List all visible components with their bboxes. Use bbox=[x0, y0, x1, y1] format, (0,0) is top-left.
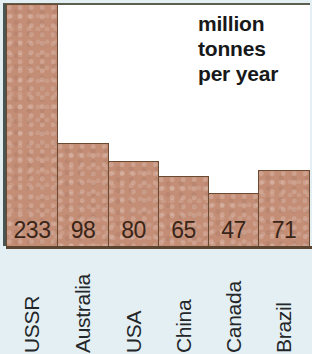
bar-chart-figure: 233 98 80 65 47 71 million tonnes per ye… bbox=[0, 0, 312, 354]
category-cell-ussr: USSR bbox=[6, 249, 58, 354]
category-label-brazil: Brazil bbox=[263, 302, 284, 353]
bar-value-ussr: 233 bbox=[7, 219, 57, 242]
category-label-china-text: China bbox=[173, 300, 194, 353]
bar-australia[interactable]: 98 bbox=[57, 143, 109, 246]
bar-canada[interactable]: 47 bbox=[208, 193, 259, 246]
category-label-china: China bbox=[163, 300, 184, 353]
bar-china[interactable]: 65 bbox=[158, 176, 209, 246]
category-cell-brazil: Brazil bbox=[258, 249, 310, 354]
category-label-usa-text: USA bbox=[123, 311, 144, 353]
category-axis: USSR Australia USA China Canada Bra bbox=[6, 249, 310, 354]
category-cell-canada: Canada bbox=[208, 249, 259, 354]
bar-brazil[interactable]: 71 bbox=[258, 170, 310, 246]
bar-value-canada: 47 bbox=[209, 219, 258, 242]
category-cell-australia: Australia bbox=[57, 249, 109, 354]
category-label-ussr: USSR bbox=[11, 296, 32, 353]
bar-usa[interactable]: 80 bbox=[108, 161, 159, 246]
chart-title-line-2: tonnes bbox=[198, 36, 278, 61]
bar-value-usa: 80 bbox=[109, 219, 158, 242]
bar-ussr[interactable]: 233 bbox=[6, 4, 58, 246]
bar-value-brazil: 71 bbox=[259, 219, 309, 242]
bar-value-china: 65 bbox=[159, 219, 208, 242]
category-cell-usa: USA bbox=[108, 249, 159, 354]
category-label-ussr-text: USSR bbox=[21, 296, 42, 353]
bar-value-australia: 98 bbox=[58, 219, 108, 242]
chart-title: million tonnes per year bbox=[198, 11, 278, 86]
category-label-australia-text: Australia bbox=[72, 274, 93, 353]
chart-title-line-3: per year bbox=[198, 61, 278, 86]
category-label-australia: Australia bbox=[62, 274, 83, 353]
category-cell-china: China bbox=[158, 249, 209, 354]
chart-title-line-1: million bbox=[198, 11, 278, 36]
category-label-canada: Canada bbox=[213, 281, 234, 353]
category-label-usa: USA bbox=[113, 311, 134, 353]
category-label-brazil-text: Brazil bbox=[273, 302, 294, 353]
category-label-canada-text: Canada bbox=[223, 281, 244, 353]
